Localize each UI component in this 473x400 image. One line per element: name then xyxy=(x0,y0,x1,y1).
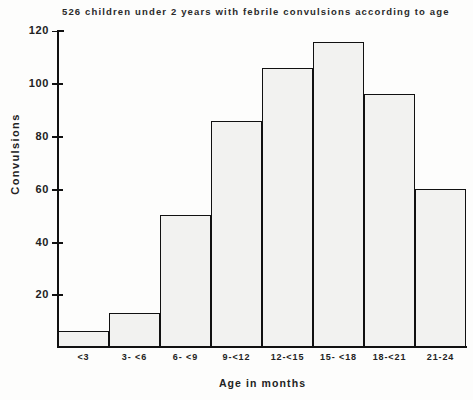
bar-2 xyxy=(160,215,211,347)
bar-5 xyxy=(313,42,364,348)
bar-group xyxy=(58,0,467,347)
y-axis-label-120: 120 xyxy=(3,24,49,36)
bar-3 xyxy=(211,121,262,348)
bar-7 xyxy=(415,189,466,347)
x-axis-label-3: 9-<12 xyxy=(211,352,262,362)
bar-6 xyxy=(364,94,415,347)
x-axis-title: Age in months xyxy=(58,377,467,389)
y-axis-label-20: 20 xyxy=(3,288,49,300)
x-axis-label-2: 6- <9 xyxy=(160,352,211,362)
x-axis-label-0: <3 xyxy=(58,352,109,362)
bar-0 xyxy=(58,331,109,347)
x-axis-tick-labels: <3 3- <6 6- <9 9-<12 12-<15 15- <18 18-<… xyxy=(58,352,467,370)
y-axis-label-40: 40 xyxy=(3,236,49,248)
bar-4 xyxy=(262,68,313,347)
x-axis-label-6: 18-<21 xyxy=(364,352,415,362)
y-axis-title: Convulsions xyxy=(9,104,21,204)
x-axis-label-5: 15- <18 xyxy=(313,352,364,362)
y-axis-label-100: 100 xyxy=(3,77,49,89)
histogram-figure: 526 children under 2 years with febrile … xyxy=(0,0,473,400)
bar-1 xyxy=(109,313,160,347)
x-axis-label-7: 21-24 xyxy=(415,352,466,362)
y-axis-tick-labels: 120 100 80 60 40 20 xyxy=(0,0,49,400)
x-axis-label-4: 12-<15 xyxy=(262,352,313,362)
x-axis-label-1: 3- <6 xyxy=(109,352,160,362)
